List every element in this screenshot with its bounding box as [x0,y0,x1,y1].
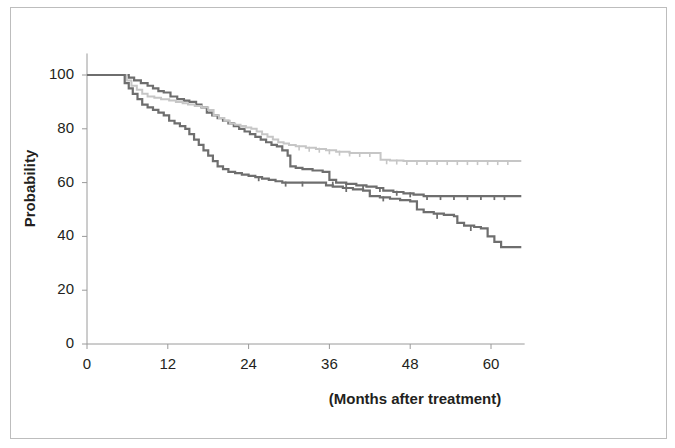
y-tick-label: 20 [34,280,74,297]
plot-area [0,0,675,448]
y-tick-label: 100 [34,65,74,82]
x-tick-label: 0 [67,355,107,372]
series-layer [87,75,521,247]
x-tick-label: 60 [471,355,511,372]
figure-container: Probability (Months after treatment) 020… [0,0,675,448]
x-tick-label: 36 [309,355,349,372]
x-tick-label: 48 [390,355,430,372]
y-tick-label: 80 [34,119,74,136]
y-tick-label: 40 [34,226,74,243]
y-tick-label: 0 [34,334,74,351]
x-tick-label: 24 [229,355,269,372]
axis-layer [82,53,525,349]
survival-curve [87,75,521,196]
x-tick-label: 12 [148,355,188,372]
y-tick-label: 60 [34,173,74,190]
